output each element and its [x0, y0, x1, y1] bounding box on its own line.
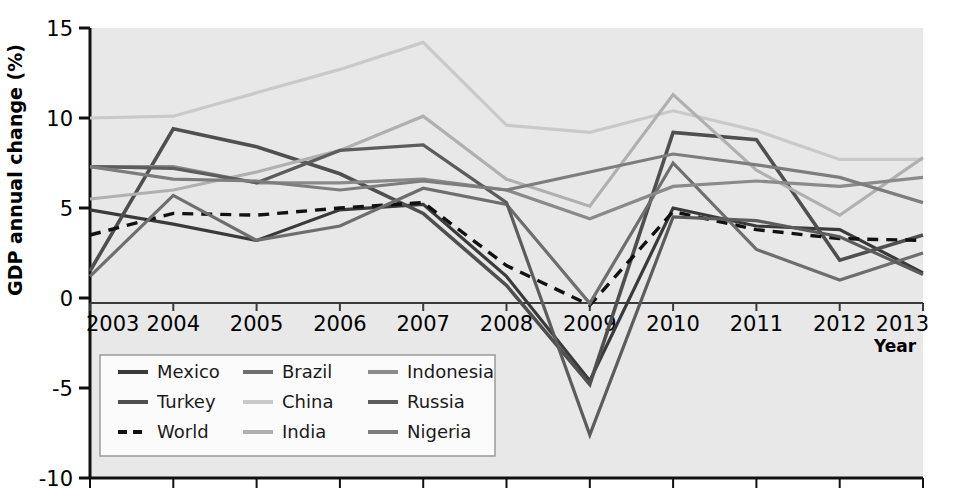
legend-label-indonesia: Indonesia: [407, 361, 494, 382]
legend-label-world: World: [157, 421, 209, 442]
x-tick-label: 2006: [313, 312, 366, 336]
x-tick-label: 2010: [646, 312, 699, 336]
legend-label-nigeria: Nigeria: [407, 421, 471, 442]
x-tick-label: 2004: [147, 312, 200, 336]
y-tick-label: 15: [46, 17, 73, 41]
legend-label-india: India: [282, 421, 326, 442]
x-tick-label: 2012: [813, 312, 866, 336]
legend-label-russia: Russia: [407, 391, 465, 412]
y-axis-ticks: 151050-5-10: [39, 17, 90, 491]
y-tick-label: 0: [60, 287, 73, 311]
x-tick-label: 2003: [86, 312, 139, 336]
legend-label-turkey: Turkey: [156, 391, 216, 412]
y-axis-label: GDP annual change (%): [4, 44, 26, 296]
gdp-annual-change-line-chart: GDP annual change (%) 151050-5-10 200320…: [0, 0, 958, 494]
x-tick-label: 2011: [730, 312, 783, 336]
x-axis-label-text: Year: [873, 336, 917, 356]
x-tick-label: 2008: [480, 312, 533, 336]
y-tick-label: 5: [60, 197, 73, 221]
y-tick-label: -10: [39, 467, 73, 491]
legend-label-brazil: Brazil: [282, 361, 332, 382]
chart-figure: GDP annual change (%) 151050-5-10 200320…: [0, 0, 958, 494]
legend-items: MexicoBrazilIndonesiaTurkeyChinaRussiaWo…: [118, 361, 494, 442]
x-tick-label: 2005: [230, 312, 283, 336]
y-tick-label: 10: [46, 107, 73, 131]
y-tick-label: -5: [52, 377, 73, 401]
x-tick-label: 2013: [876, 312, 929, 336]
legend-label-china: China: [282, 391, 333, 412]
chart-legend: MexicoBrazilIndonesiaTurkeyChinaRussiaWo…: [100, 355, 495, 456]
y-axis-label-text: GDP annual change (%): [4, 44, 26, 296]
x-tick-label: 2007: [396, 312, 449, 336]
legend-label-mexico: Mexico: [157, 361, 220, 382]
